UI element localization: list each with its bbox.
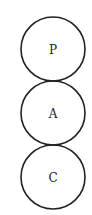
node-p: P	[21, 17, 85, 81]
pac-circle-stack: P A C	[0, 0, 92, 215]
node-a: A	[21, 81, 85, 145]
label-a: A	[48, 107, 58, 121]
node-c: C	[21, 145, 85, 209]
label-p: P	[49, 43, 57, 57]
label-c: C	[48, 171, 57, 185]
